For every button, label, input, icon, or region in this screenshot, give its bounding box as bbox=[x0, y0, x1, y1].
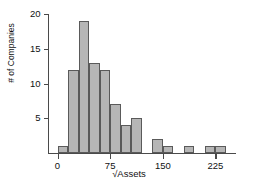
histogram-bar bbox=[163, 146, 174, 153]
histogram-bar bbox=[89, 63, 100, 153]
histogram-bar bbox=[58, 146, 69, 153]
histogram-bar bbox=[100, 70, 111, 153]
y-axis-tick-label: 5 bbox=[21, 113, 41, 123]
histogram-bar bbox=[121, 125, 132, 153]
y-axis-tick bbox=[44, 84, 49, 85]
y-axis-tick bbox=[44, 14, 49, 15]
x-axis-label: √Assets bbox=[0, 168, 258, 179]
histogram-bar bbox=[131, 118, 142, 153]
x-axis-tick bbox=[58, 154, 59, 159]
histogram-bar bbox=[68, 70, 79, 153]
histogram-chart: # of Companies 5101520075150225 √Assets bbox=[0, 0, 258, 187]
y-axis-tick-label: 20 bbox=[21, 9, 41, 19]
x-axis-tick bbox=[110, 154, 111, 159]
y-axis-tick-label: 10 bbox=[21, 79, 41, 89]
histogram-bar bbox=[79, 21, 90, 153]
histogram-bar bbox=[152, 139, 163, 153]
histogram-bar bbox=[110, 104, 121, 153]
histogram-bar bbox=[184, 146, 195, 153]
histogram-bar bbox=[215, 146, 226, 153]
y-axis-tick bbox=[44, 118, 49, 119]
x-axis-tick bbox=[163, 154, 164, 159]
y-axis-label: # of Companies bbox=[6, 0, 16, 108]
y-axis-tick-label: 15 bbox=[21, 44, 41, 54]
histogram-bar bbox=[205, 146, 216, 153]
x-axis-line bbox=[48, 153, 237, 154]
x-axis-tick bbox=[215, 154, 216, 159]
y-axis-tick bbox=[44, 49, 49, 50]
